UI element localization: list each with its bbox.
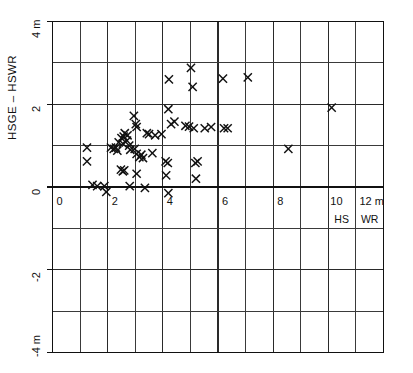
data-point-group <box>83 64 336 198</box>
data-point <box>189 83 197 91</box>
data-point <box>141 184 149 192</box>
data-point <box>219 74 227 82</box>
data-point <box>83 157 91 165</box>
data-point <box>164 105 172 113</box>
axis-tickmarks <box>47 22 53 353</box>
data-point <box>165 75 173 83</box>
data-point <box>164 189 172 197</box>
data-point <box>157 130 165 138</box>
data-point <box>148 149 156 157</box>
data-point <box>244 73 252 81</box>
data-point <box>83 144 91 152</box>
data-point <box>207 123 215 131</box>
data-point <box>133 170 141 178</box>
data-point <box>187 64 195 72</box>
plot-canvas <box>0 0 413 373</box>
scatter-plot-figure: HSGE – HSWR 4 m 2 0 -2 -4 m 0 2 4 6 8 10… <box>0 0 413 373</box>
data-point <box>192 175 200 183</box>
data-point <box>130 112 138 120</box>
data-point <box>126 182 134 190</box>
data-point <box>170 118 178 126</box>
